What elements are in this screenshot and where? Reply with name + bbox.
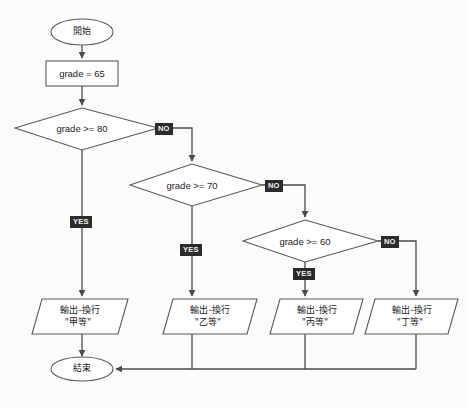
- decision3-node-shape: [243, 220, 378, 262]
- edge-label-decision2-yes: YES: [180, 244, 202, 256]
- end-node-shape: [51, 357, 113, 381]
- edge-label-decision1-yes: YES: [70, 216, 92, 228]
- decision1-node-shape: [15, 108, 158, 150]
- edge-decision3-no: [378, 241, 416, 296]
- output2-node-shape: [163, 299, 257, 334]
- edge-label-decision2-no: NO: [265, 180, 283, 192]
- output1-node-shape: [32, 299, 128, 334]
- output4-node-shape: [365, 299, 458, 334]
- flowchart-canvas: 開始 grade = 65 grade >= 80 grade >= 70 gr…: [0, 0, 468, 408]
- edge-label-decision3-no: NO: [381, 236, 399, 248]
- edge-label-decision3-yes: YES: [293, 268, 315, 280]
- init-node-shape: [46, 61, 118, 86]
- start-node-shape: [51, 19, 113, 45]
- flowchart-graphics: [0, 0, 468, 408]
- decision2-node-shape: [130, 164, 262, 206]
- edge-label-decision1-no: NO: [155, 123, 173, 135]
- output3-node-shape: [270, 299, 363, 334]
